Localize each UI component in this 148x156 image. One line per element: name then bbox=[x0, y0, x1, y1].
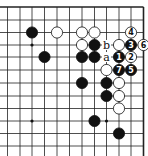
white-stone bbox=[113, 77, 124, 88]
move-number: 1 bbox=[116, 53, 122, 62]
black-stone bbox=[26, 27, 37, 38]
black-stone bbox=[76, 51, 87, 62]
white-stone bbox=[113, 39, 124, 50]
black-stone: 7 bbox=[113, 64, 124, 75]
white-stone: 6 bbox=[138, 39, 148, 50]
black-stone bbox=[113, 128, 124, 139]
black-stone: 3 bbox=[125, 39, 136, 50]
star-point bbox=[105, 119, 108, 122]
black-stone bbox=[89, 51, 100, 62]
white-stone bbox=[101, 64, 112, 75]
white-stone bbox=[113, 103, 124, 114]
point-label-a: a bbox=[103, 51, 110, 64]
black-stone bbox=[101, 77, 112, 88]
black-stone bbox=[76, 77, 87, 88]
black-stone: 5 bbox=[125, 64, 136, 75]
move-number: 3 bbox=[128, 41, 134, 50]
black-stone bbox=[101, 90, 112, 101]
marks-layer: ba bbox=[102, 39, 111, 64]
move-number: 2 bbox=[128, 53, 134, 62]
white-stone bbox=[76, 27, 87, 38]
white-stone: 4 bbox=[125, 27, 136, 38]
go-board-diagram: 4361275 ba bbox=[0, 0, 148, 156]
white-stone: 2 bbox=[125, 51, 136, 62]
black-stone bbox=[39, 51, 50, 62]
move-number: 5 bbox=[128, 66, 134, 75]
move-number: 7 bbox=[116, 66, 122, 75]
star-point bbox=[30, 43, 33, 46]
white-stone bbox=[51, 27, 62, 38]
white-stone bbox=[113, 90, 124, 101]
black-stone: 1 bbox=[113, 51, 124, 62]
white-stone bbox=[76, 39, 87, 50]
white-stone bbox=[89, 27, 100, 38]
move-number: 4 bbox=[128, 28, 134, 37]
move-number: 6 bbox=[141, 41, 147, 50]
black-stone bbox=[89, 39, 100, 50]
star-point bbox=[30, 119, 33, 122]
black-stone bbox=[89, 115, 100, 126]
